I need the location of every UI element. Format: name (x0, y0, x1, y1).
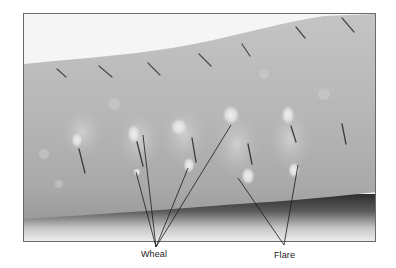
wheal-label: Wheal (141, 249, 167, 259)
wheal-leader-line (143, 135, 156, 247)
flare-leader-line (238, 178, 284, 245)
wheal-leader-line (156, 125, 231, 247)
flare-label: Flare (274, 250, 295, 260)
wheal-leader-line (156, 168, 188, 247)
flare-leader-line (284, 165, 298, 245)
skin-prick-test-figure: Wheal Flare (0, 0, 396, 268)
annotation-leader-lines (0, 0, 396, 268)
wheal-leader-line (136, 172, 156, 247)
